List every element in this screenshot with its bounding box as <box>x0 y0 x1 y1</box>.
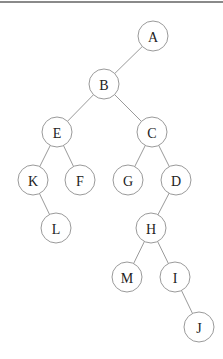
node-label: L <box>52 222 61 237</box>
tree-nodes: ABECKFGDLHMIJ <box>18 21 214 342</box>
node-label: E <box>53 126 62 141</box>
node-i: I <box>160 262 190 292</box>
node-label: M <box>121 271 134 286</box>
node-a: A <box>138 21 168 51</box>
node-l: L <box>41 213 71 243</box>
node-label: D <box>171 174 181 189</box>
node-label: J <box>196 321 202 336</box>
node-label: B <box>99 78 108 93</box>
node-label: H <box>146 222 156 237</box>
node-label: C <box>147 126 156 141</box>
node-j: J <box>184 312 214 342</box>
node-f: F <box>65 165 95 195</box>
node-h: H <box>136 213 166 243</box>
node-k: K <box>18 165 48 195</box>
node-c: C <box>137 117 167 147</box>
node-g: G <box>113 165 143 195</box>
node-label: F <box>76 174 84 189</box>
node-label: I <box>173 271 178 286</box>
node-label: G <box>123 174 133 189</box>
node-label: K <box>28 174 38 189</box>
node-e: E <box>42 117 72 147</box>
tree-diagram: ABECKFGDLHMIJ <box>0 0 223 359</box>
node-b: B <box>89 69 119 99</box>
node-label: A <box>148 30 159 45</box>
node-m: M <box>112 262 142 292</box>
node-d: D <box>161 165 191 195</box>
